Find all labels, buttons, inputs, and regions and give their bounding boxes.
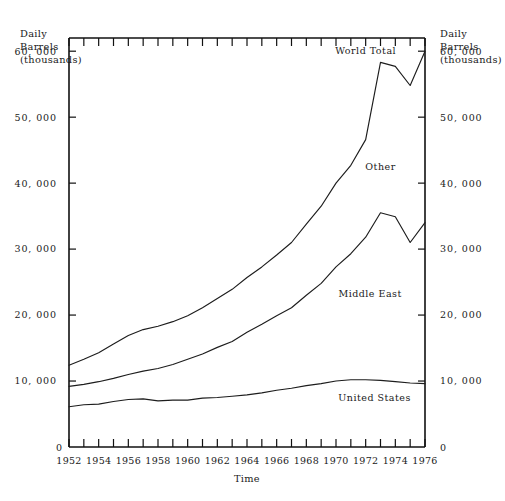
y-axis-tick-labels-right: 60, 00050, 00040, 00030, 00020, 00010, 0… xyxy=(440,46,483,387)
left-axis-caption-line-1: Daily xyxy=(20,28,47,39)
x-tick-label: 1976 xyxy=(412,455,437,466)
axis-frame xyxy=(69,38,425,447)
y-axis-ticks-right xyxy=(418,51,425,381)
y-tick-label-left: 20, 000 xyxy=(14,309,57,320)
y-tick-label-right: 60, 000 xyxy=(440,46,483,57)
zero-label-left: 0 xyxy=(56,442,62,453)
series-lines xyxy=(69,51,425,407)
x-tick-label: 1972 xyxy=(353,455,378,466)
series-annotation-world-total: World Total xyxy=(335,45,396,56)
y-axis-ticks-left xyxy=(69,51,76,381)
x-tick-label: 1962 xyxy=(205,455,230,466)
x-tick-label: 1952 xyxy=(56,455,81,466)
y-tick-label-right: 50, 000 xyxy=(440,112,483,123)
y-axis-tick-labels-left: 60, 00050, 00040, 00030, 00020, 00010, 0… xyxy=(14,46,57,387)
y-tick-label-right: 30, 000 xyxy=(440,243,483,254)
series-line-world-total xyxy=(69,51,425,365)
series-annotation-united-states: United States xyxy=(338,392,411,403)
x-tick-label: 1970 xyxy=(323,455,348,466)
y-tick-label-left: 50, 000 xyxy=(14,112,57,123)
series-annotation-other: Other xyxy=(365,161,395,172)
x-tick-label: 1968 xyxy=(294,455,319,466)
x-tick-label: 1966 xyxy=(264,455,289,466)
right-axis-caption-line-1: Daily xyxy=(440,28,467,39)
chart-plot-area: Daily Barrels (thousands) Daily Barrels … xyxy=(0,0,505,501)
x-axis-tick-labels: 1952195419561958196019621964196619681970… xyxy=(56,455,437,466)
x-tick-label: 1958 xyxy=(145,455,170,466)
y-tick-label-right: 40, 000 xyxy=(440,178,483,189)
x-tick-label: 1960 xyxy=(175,455,200,466)
y-tick-label-left: 10, 000 xyxy=(14,375,57,386)
y-tick-label-right: 20, 000 xyxy=(440,309,483,320)
zero-label-right: 0 xyxy=(440,442,446,453)
x-axis-ticks-bottom xyxy=(69,439,425,447)
x-tick-label: 1956 xyxy=(116,455,141,466)
series-annotation-middle-east: Middle East xyxy=(338,288,401,299)
y-tick-label-left: 30, 000 xyxy=(14,243,57,254)
series-line-middle-east xyxy=(69,213,425,387)
oil-production-line-chart: Daily Barrels (thousands) Daily Barrels … xyxy=(0,0,505,501)
x-tick-label: 1964 xyxy=(234,455,259,466)
x-axis-caption: Time xyxy=(234,473,260,484)
x-tick-label: 1974 xyxy=(383,455,408,466)
y-tick-label-right: 10, 000 xyxy=(440,375,483,386)
x-tick-label: 1954 xyxy=(86,455,111,466)
y-tick-label-left: 40, 000 xyxy=(14,178,57,189)
y-tick-label-left: 60, 000 xyxy=(14,46,57,57)
